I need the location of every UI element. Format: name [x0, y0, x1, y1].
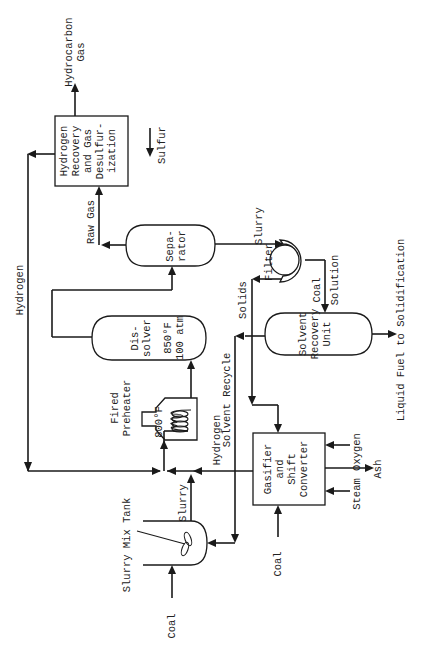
arrow-right-icon [152, 467, 161, 475]
steam-stream: Steam [325, 478, 363, 510]
feed-junction [152, 467, 253, 475]
ash-label: Ash [372, 460, 384, 479]
dissolver-label-line1: Dis- [129, 325, 141, 350]
arrow-left-icon [325, 487, 334, 495]
arrow-left-icon [235, 332, 244, 340]
gasifier-label-line1: Gasifier [262, 444, 274, 494]
dissolver-label-line2: solver [141, 319, 153, 357]
hydrogen-recycle-stream: Hydrogen [14, 150, 160, 472]
gasifier-shift-converter: Gasifier and Shift Converter [253, 433, 325, 505]
arrow-left-icon [101, 241, 110, 249]
gasifier-label-line4: Converter [298, 441, 310, 498]
solvent-recovery-unit: Solvent Recovery Unit [265, 309, 372, 359]
arrow-up-icon [187, 474, 195, 483]
arrow-up-icon [168, 266, 176, 275]
arrow-up-icon [274, 505, 282, 514]
separator-label-line2: rator [176, 230, 188, 262]
arrow-up-icon [168, 565, 176, 574]
hydrogen-recovery-label-line1: Hydrogen [58, 126, 70, 176]
hydrogen-recovery-label-line5: ization [106, 129, 118, 173]
gasifier-label-line3: Shift [286, 453, 298, 485]
oxygen-label: Oxygen [351, 433, 363, 471]
solvent-recovery-label-line3: Unit [321, 321, 333, 346]
sulfur-label: Sulfur [156, 126, 168, 164]
solvent-recycle-label: Solvent Recycle [221, 353, 233, 448]
arrow-up-icon [160, 440, 168, 449]
raw-gas-label: Raw Gas [85, 200, 97, 244]
slurry-mix-tank-label: Slurry Mix Tank [121, 498, 133, 593]
solids-label: Solids [237, 281, 249, 319]
gasifier-label-line2: and [274, 460, 286, 479]
coal-solution-stream: Coal Solution [305, 255, 341, 313]
sulfur-stream: Sulfur [146, 126, 168, 164]
filter: Filter [263, 240, 301, 282]
coal-to-tank-label: Coal [166, 613, 178, 638]
hydrocarbon-gas-label-line2: Gas [75, 43, 87, 62]
slurry-to-preheater-stream: Slurry [177, 474, 195, 522]
hydrocarbon-gas-stream: Hydrocarbon Gas [63, 17, 87, 116]
arrow-up-icon [95, 186, 103, 195]
arrow-left-icon [252, 275, 260, 283]
slurry-mix-tank: Slurry Mix Tank [121, 498, 207, 593]
arrow-left-icon [207, 539, 216, 547]
dissolver-temperature-label: 850°F [162, 322, 174, 354]
raw-gas-stream: Raw Gas [85, 186, 126, 249]
separator-vessel: Sepa- rator [126, 225, 215, 266]
oxygen-stream: Oxygen [325, 433, 363, 471]
liquid-fuel-stream: Liquid Fuel to Solidification [372, 239, 407, 422]
hydrogen-recovery-label-line4: Desulfur- [94, 123, 106, 180]
coal-to-gasifier-stream: Coal [272, 505, 284, 577]
arrow-left-icon [193, 467, 202, 475]
fired-preheater: 800°F Fired Preheater [109, 380, 197, 446]
arrow-down-icon [231, 534, 239, 543]
hydrogen-recovery-label-line2: Recovery [70, 126, 82, 176]
coal-to-tank-stream: Coal [166, 565, 178, 639]
coal-solution-label-line2: Solution [329, 255, 341, 305]
hydrogen-recovery-unit: Hydrogen Recovery and Gas Desulfur- izat… [55, 116, 128, 186]
slurry-to-filter-stream: Slurry [215, 207, 284, 248]
process-flow-diagram: Hydrogen Recovery and Gas Desulfur- izat… [0, 0, 424, 648]
preheater-label-line1: Fired [109, 392, 121, 424]
hydrocarbon-gas-label-line1: Hydrocarbon [63, 17, 75, 86]
solvent-recovery-label-line2: Recovery [309, 309, 321, 359]
solvent-recovery-label-line1: Solvent [297, 312, 309, 356]
preheater-label-line2: Preheater [121, 380, 133, 437]
slurry-to-preheater-label: Slurry [177, 484, 189, 522]
arrow-up-icon [187, 360, 195, 369]
preheater-feed-stream [160, 440, 168, 471]
slurry-to-filter-label: Slurry [253, 207, 265, 245]
coal-to-gasifier-label: Coal [272, 551, 284, 576]
arrow-down-icon [248, 396, 256, 405]
coal-solution-label-line1: Coal [311, 277, 323, 302]
hydrogen-recycle-label: Hydrogen [14, 265, 26, 315]
preheater-temperature-label: 800°F [153, 406, 165, 438]
arrow-down-icon [146, 148, 154, 157]
separator-label-line1: Sepa- [164, 230, 176, 262]
arrow-left-icon [325, 441, 334, 449]
steam-label: Steam [351, 478, 363, 510]
liquid-fuel-label: Liquid Fuel to Solidification [395, 239, 407, 422]
arrow-down-icon [321, 304, 329, 313]
hydrogen-recovery-label-line3: and Gas [82, 129, 94, 173]
dissolver-pressure-label: 100 atm [174, 316, 186, 360]
dissolver-vessel: Dis- solver 850°F 100 atm [92, 316, 206, 360]
arrow-down-icon [274, 424, 282, 433]
filter-label: Filter [263, 243, 275, 281]
